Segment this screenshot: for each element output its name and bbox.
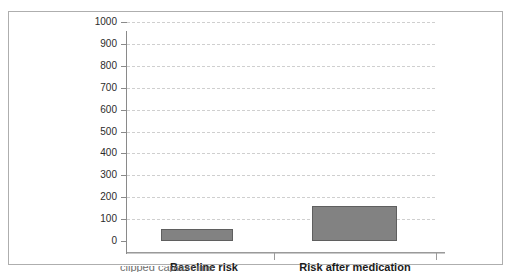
gridline-700 [127, 88, 435, 89]
category-end-tick [436, 253, 437, 260]
ytick-mark-1000 [121, 22, 127, 23]
y-axis-line [126, 31, 127, 254]
ytick-label-800: 800 [71, 61, 117, 71]
gridline-800 [127, 66, 435, 67]
ytick-mark-800 [121, 66, 127, 67]
ytick-label-500: 500 [71, 127, 117, 137]
ytick-label-700: 700 [71, 83, 117, 93]
ytick-label-300: 300 [71, 170, 117, 180]
ytick-mark-100 [121, 219, 127, 220]
chart-screenshot: 1000 900 800 700 600 500 400 300 200 100 [0, 0, 511, 272]
bar-baseline-risk[interactable] [161, 229, 233, 241]
ytick-label-0: 0 [71, 236, 117, 246]
gridline-300 [127, 175, 435, 176]
gridline-600 [127, 110, 435, 111]
gridline-400 [127, 153, 435, 154]
gridline-200 [127, 197, 435, 198]
clipped-caption: clipped caption line [0, 266, 511, 272]
gridline-500 [127, 132, 435, 133]
ytick-mark-500 [121, 132, 127, 133]
ytick-label-200: 200 [71, 192, 117, 202]
ytick-mark-600 [121, 110, 127, 111]
ytick-label-600: 600 [71, 105, 117, 115]
ytick-mark-200 [121, 197, 127, 198]
ytick-mark-300 [121, 175, 127, 176]
ytick-mark-400 [121, 153, 127, 154]
x-axis-line-shadow [127, 253, 445, 254]
ytick-mark-900 [121, 44, 127, 45]
category-separator-tick [274, 253, 275, 260]
bar-risk-after-medication[interactable] [312, 206, 397, 241]
ytick-mark-0 [121, 241, 127, 242]
ytick-label-400: 400 [71, 148, 117, 158]
gridline-1000 [127, 22, 435, 23]
ytick-label-900: 900 [71, 39, 117, 49]
figure-frame: 1000 900 800 700 600 500 400 300 200 100 [8, 11, 503, 265]
gridline-900 [127, 44, 435, 45]
ytick-mark-700 [121, 88, 127, 89]
caption-text: clipped caption line [120, 266, 214, 272]
ytick-label-100: 100 [71, 214, 117, 224]
ytick-label-1000: 1000 [71, 17, 117, 27]
